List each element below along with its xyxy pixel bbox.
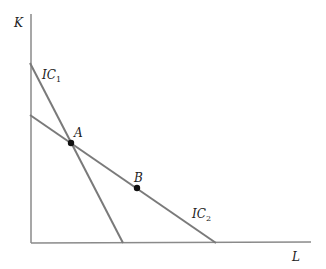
point-b (134, 185, 140, 191)
point-a-label: A (73, 126, 83, 140)
ic1-label: IC1 (41, 68, 61, 84)
point-a (68, 140, 74, 146)
ic1-line (30, 63, 123, 243)
x-axis-label: L (291, 250, 300, 264)
indifference-curve-chart: K L IC1 IC2 A B (0, 0, 326, 269)
ic2-label: IC2 (191, 207, 211, 223)
ic2-line (30, 115, 216, 243)
point-b-label: B (133, 171, 143, 185)
l-axis (31, 242, 311, 243)
y-axis-label: K (13, 16, 24, 30)
